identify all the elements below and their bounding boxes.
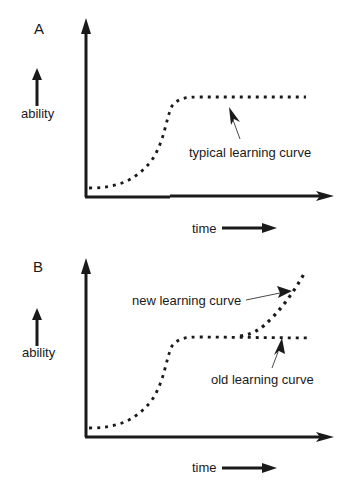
typical-curve-pointer-arrow-icon bbox=[229, 107, 240, 139]
ability-arrow-icon bbox=[32, 308, 42, 346]
typical-learning-curve bbox=[89, 97, 306, 188]
old-curve-pointer-arrow-icon bbox=[272, 338, 285, 368]
time-arrow-icon bbox=[222, 463, 277, 473]
learning-curve-diagram bbox=[0, 0, 357, 493]
panel-b bbox=[32, 258, 334, 473]
panel-b-axes bbox=[81, 258, 334, 442]
ability-arrow-icon bbox=[32, 68, 42, 106]
new-curve-pointer-arrow-icon bbox=[246, 286, 292, 300]
panel-a-axes bbox=[81, 18, 334, 201]
time-arrow-icon bbox=[222, 223, 277, 233]
new-learning-curve bbox=[240, 272, 305, 336]
panel-a bbox=[32, 18, 334, 233]
